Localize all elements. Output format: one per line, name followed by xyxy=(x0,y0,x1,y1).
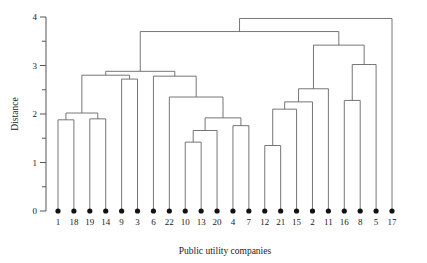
dendrogram-leaves: 11819149362210132047122115211168517 xyxy=(55,208,397,227)
y-axis-tick-label: 2 xyxy=(33,109,38,119)
x-axis-title: Public utility companies xyxy=(179,246,272,256)
leaf-node-marker xyxy=(214,208,219,213)
leaf-node-marker xyxy=(358,208,363,213)
dendrogram-link xyxy=(153,76,196,211)
dendrogram-link xyxy=(122,79,138,211)
dendrogram-link xyxy=(265,146,281,211)
leaf-label: 6 xyxy=(151,217,156,227)
leaf-label: 5 xyxy=(374,217,379,227)
leaf-node-marker xyxy=(103,208,108,213)
leaf-node-marker xyxy=(326,208,331,213)
leaf-node-marker xyxy=(199,208,204,213)
leaf-label: 9 xyxy=(119,217,124,227)
dendrogram-link xyxy=(352,65,376,211)
leaf-node-marker xyxy=(230,208,235,213)
leaf-label: 13 xyxy=(197,217,207,227)
leaf-label: 18 xyxy=(69,217,79,227)
leaf-node-marker xyxy=(119,208,124,213)
leaf-label: 7 xyxy=(247,217,252,227)
dendrogram-link xyxy=(169,97,223,211)
leaf-label: 15 xyxy=(292,217,302,227)
leaf-label: 17 xyxy=(388,217,398,227)
leaf-label: 16 xyxy=(340,217,350,227)
leaf-label: 19 xyxy=(85,217,95,227)
y-axis: 01234 xyxy=(33,12,47,216)
y-axis-title: Distance xyxy=(10,97,20,130)
dendrogram-link xyxy=(233,126,249,211)
leaf-node-marker xyxy=(262,208,267,213)
dendrogram-link xyxy=(185,142,201,211)
leaf-node-marker xyxy=(135,208,140,213)
y-axis-tick-label: 3 xyxy=(33,61,38,71)
dendrogram-link xyxy=(299,89,329,211)
leaf-label: 21 xyxy=(276,217,285,227)
dendrogram-link xyxy=(273,109,297,211)
leaf-node-marker xyxy=(87,208,92,213)
leaf-node-marker xyxy=(246,208,251,213)
dendrogram-figure: 01234 1181914936221013204712211521116851… xyxy=(0,0,427,263)
leaf-label: 4 xyxy=(231,217,236,227)
leaf-node-marker xyxy=(183,208,188,213)
dendrogram-link xyxy=(90,119,106,211)
leaf-label: 22 xyxy=(165,217,174,227)
leaf-node-marker xyxy=(71,208,76,213)
leaf-label: 1 xyxy=(56,217,61,227)
leaf-node-marker xyxy=(55,208,60,213)
dendrogram-link xyxy=(140,32,339,72)
dendrogram-link xyxy=(240,18,392,211)
y-axis-tick-label: 0 xyxy=(33,206,38,216)
leaf-label: 20 xyxy=(213,217,223,227)
leaf-node-marker xyxy=(167,208,172,213)
leaf-label: 12 xyxy=(260,217,269,227)
leaf-label: 14 xyxy=(101,217,111,227)
leaf-node-marker xyxy=(278,208,283,213)
dendrogram-link xyxy=(344,100,360,211)
dendrogram-link xyxy=(285,102,313,211)
dendrogram-links xyxy=(58,18,392,211)
leaf-node-marker xyxy=(373,208,378,213)
leaf-label: 10 xyxy=(181,217,191,227)
y-axis-tick-label: 4 xyxy=(33,12,38,22)
dendrogram-svg: 01234 1181914936221013204712211521116851… xyxy=(0,0,427,263)
dendrogram-link xyxy=(82,75,130,113)
leaf-node-marker xyxy=(294,208,299,213)
dendrogram-link xyxy=(205,118,241,131)
leaf-node-marker xyxy=(342,208,347,213)
y-axis-tick-label: 1 xyxy=(33,158,38,168)
dendrogram-link xyxy=(58,120,74,211)
leaf-label: 11 xyxy=(324,217,333,227)
leaf-label: 3 xyxy=(135,217,140,227)
dendrogram-link xyxy=(313,45,364,89)
leaf-label: 8 xyxy=(358,217,363,227)
leaf-label: 2 xyxy=(310,217,315,227)
leaf-node-marker xyxy=(310,208,315,213)
axis-labels: Public utility companiesDistance xyxy=(10,97,271,256)
leaf-node-marker xyxy=(389,208,394,213)
leaf-node-marker xyxy=(151,208,156,213)
